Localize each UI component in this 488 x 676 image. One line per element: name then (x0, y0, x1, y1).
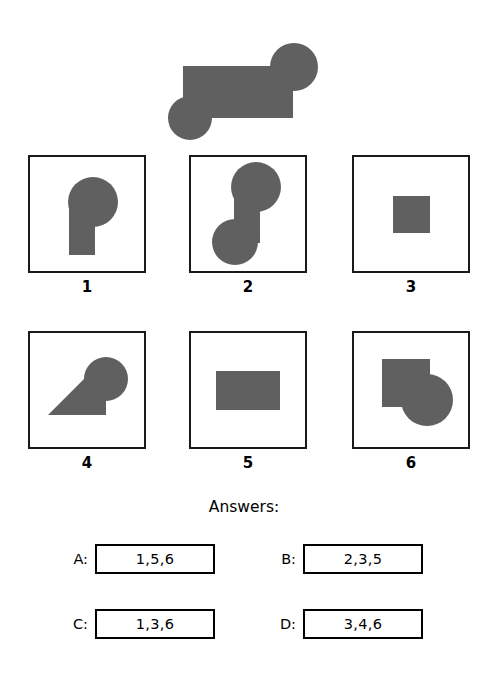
option-5-shape (191, 333, 305, 447)
option-2-box[interactable] (189, 155, 307, 273)
target-composite-shape (0, 30, 488, 140)
option-3-square (393, 196, 430, 233)
option-6-box[interactable] (352, 331, 470, 449)
answer-letter-c: C: (62, 616, 88, 632)
answer-option-c[interactable]: 1,3,6 (95, 609, 215, 639)
option-4-shape (30, 333, 144, 447)
option-2-shape (191, 157, 305, 271)
answer-letter-a: A: (62, 551, 88, 567)
answer-option-a[interactable]: 1,5,6 (95, 544, 215, 574)
option-5-label: 5 (189, 454, 307, 472)
option-2-circle-top (231, 162, 281, 212)
answer-option-b[interactable]: 2,3,5 (303, 544, 423, 574)
option-1-box[interactable] (28, 155, 146, 273)
target-shape-area (0, 30, 488, 140)
option-6-circle (401, 374, 453, 426)
puzzle-stage: 1 2 3 4 (0, 0, 488, 676)
option-4-box[interactable] (28, 331, 146, 449)
option-3-shape (354, 157, 468, 271)
answer-option-d[interactable]: 3,4,6 (303, 609, 423, 639)
option-5-box[interactable] (189, 331, 307, 449)
option-6-shape (354, 333, 468, 447)
option-1-circle (68, 177, 118, 227)
option-6-label: 6 (352, 454, 470, 472)
target-circle-upper-right (270, 43, 318, 91)
option-1-shape (30, 157, 144, 271)
option-3-label: 3 (352, 278, 470, 296)
option-2-circle-bottom (212, 219, 258, 265)
answers-heading: Answers: (0, 498, 488, 516)
option-1-label: 1 (28, 278, 146, 296)
option-4-label: 4 (28, 454, 146, 472)
option-4-circle (84, 357, 128, 401)
option-5-rectangle (216, 371, 280, 410)
answer-letter-d: D: (270, 616, 296, 632)
answer-letter-b: B: (270, 551, 296, 567)
option-2-label: 2 (189, 278, 307, 296)
option-3-box[interactable] (352, 155, 470, 273)
